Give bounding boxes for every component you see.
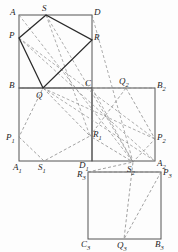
ray-C-to-S2 (92, 88, 133, 162)
point-label-B: B (9, 81, 15, 90)
ray-Q-to-A2 (43, 88, 155, 161)
squares-group (19, 15, 161, 239)
geometry-figure: A S D P R B Q C Q2 B2 P1 R1 P2 A1 S1 D1 … (0, 0, 178, 252)
point-label-P: P (9, 31, 15, 40)
quad-R3P3Q3S2 (88, 162, 161, 239)
point-label-S2: S2 (127, 165, 135, 176)
point-label-P1: P1 (6, 133, 15, 144)
point-label-A1: A1 (13, 163, 22, 174)
square-BCD1A1 (19, 88, 92, 161)
point-label-R: R (94, 33, 100, 42)
point-label-Q: Q (36, 91, 43, 100)
point-label-A: A (10, 8, 16, 17)
point-label-S: S (42, 4, 47, 13)
point-label-C: C (85, 79, 91, 88)
point-label-R1: R1 (93, 130, 102, 141)
point-label-P3: P3 (163, 168, 172, 179)
point-label-C3: C3 (81, 240, 90, 251)
quad-PSRQ (19, 15, 92, 88)
point-label-P2: P2 (157, 133, 166, 144)
ray-S-to-R1 (46, 15, 90, 136)
point-label-R3: R3 (77, 170, 86, 181)
point-label-Q2: Q2 (119, 77, 129, 88)
point-label-Q3: Q3 (117, 241, 127, 252)
point-label-B3: B3 (155, 240, 164, 251)
figure-canvas (0, 0, 178, 252)
point-label-B2: B2 (157, 81, 166, 92)
quad-P1S1R1Q (19, 88, 90, 161)
square-CB2A2D1 (92, 88, 155, 161)
point-label-S1: S1 (38, 163, 46, 174)
point-label-D: D (94, 8, 101, 17)
square-R3P3B3C3 (88, 172, 161, 239)
solid-quad-group (19, 15, 92, 88)
